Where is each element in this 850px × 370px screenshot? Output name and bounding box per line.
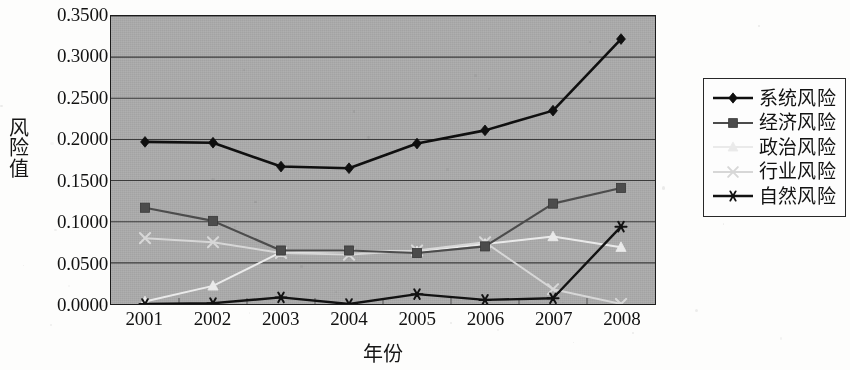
triangle-marker	[208, 281, 218, 291]
legend-item: 系统风险	[711, 86, 836, 111]
plot-area	[110, 15, 656, 305]
legend-label: 系统风险	[759, 89, 836, 108]
diamond-marker	[481, 125, 490, 136]
legend-label: 政治风险	[759, 138, 836, 157]
asterisk-marker	[479, 295, 490, 304]
legend-item: 政治风险	[711, 135, 836, 160]
legend-label: 经济风险	[759, 113, 836, 132]
y-axis-tick-labels: 0.00000.05000.10000.15000.20000.25000.30…	[16, 0, 108, 370]
scan-speck	[848, 78, 849, 79]
diamond-marker	[141, 137, 150, 148]
square-marker	[344, 246, 353, 255]
x-axis-tick-label: 2002	[194, 308, 231, 330]
y-axis-tick-label: 0.1000	[20, 211, 108, 233]
scan-speck	[780, 337, 783, 340]
x-axis-tick-labels: 20012002200320042005200620072008	[110, 308, 656, 338]
asterisk-marker	[207, 298, 218, 304]
x-axis-title: 年份	[110, 338, 656, 367]
diamond-marker	[729, 93, 737, 103]
square-marker	[140, 203, 149, 212]
scan-speck	[695, 309, 698, 312]
y-axis-tick-label: 0.0000	[20, 294, 108, 316]
square-marker	[412, 248, 421, 257]
asterisk-marker	[275, 293, 286, 303]
series-square	[140, 183, 625, 257]
diamond-marker	[277, 161, 286, 172]
diamond-marker	[345, 163, 354, 174]
series-diamond	[141, 34, 626, 174]
series-line	[145, 39, 621, 168]
x-axis-tick-label: 2007	[535, 308, 572, 330]
risk-line-chart-figure: 风 险 值 0.00000.05000.10000.15000.20000.25…	[0, 0, 850, 370]
square-marker	[480, 242, 489, 251]
square-marker	[729, 118, 738, 127]
plot-svg	[111, 16, 655, 304]
square-marker	[208, 216, 217, 225]
scan-speck	[723, 223, 724, 224]
y-axis-tick-label: 0.2500	[20, 87, 108, 109]
scan-speck	[0, 105, 2, 107]
legend-marker-x	[711, 162, 755, 182]
legend-item: 自然风险	[711, 184, 836, 209]
x-axis-tick-label: 2001	[126, 308, 163, 330]
square-marker	[616, 183, 625, 192]
legend-item: 经济风险	[711, 111, 836, 136]
x-axis-tick-label: 2008	[603, 308, 640, 330]
series-x	[140, 233, 626, 304]
square-marker	[548, 199, 557, 208]
legend-marker-triangle	[711, 137, 755, 157]
asterisk-marker	[343, 299, 354, 304]
x-axis-tick-label: 2005	[399, 308, 436, 330]
x-axis-tick-label: 2004	[330, 308, 367, 330]
y-axis-tick-label: 0.0500	[20, 253, 108, 275]
legend-label: 行业风险	[759, 162, 836, 181]
x-axis-tick-label: 2003	[262, 308, 299, 330]
legend-marker-asterisk	[711, 186, 755, 206]
legend-item: 行业风险	[711, 160, 836, 185]
legend-marker-square	[711, 113, 755, 133]
scan-speck	[662, 186, 665, 189]
square-marker	[276, 246, 285, 255]
chart-legend: 系统风险经济风险政治风险行业风险自然风险	[703, 78, 846, 217]
y-axis-tick-label: 0.3500	[20, 4, 108, 26]
legend-label: 自然风险	[759, 187, 836, 206]
asterisk-marker	[411, 289, 422, 299]
legend-marker-diamond	[711, 88, 755, 108]
scan-speck	[758, 25, 759, 26]
asterisk-marker	[728, 192, 739, 201]
x-axis-tick-label: 2006	[467, 308, 504, 330]
y-axis-tick-label: 0.3000	[20, 45, 108, 67]
y-axis-tick-label: 0.1500	[20, 170, 108, 192]
y-axis-tick-label: 0.2000	[20, 128, 108, 150]
